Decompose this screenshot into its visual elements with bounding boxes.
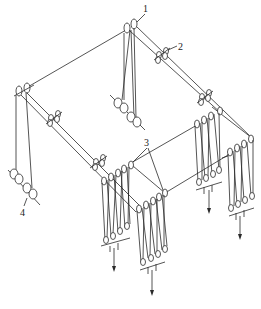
connector-rope — [222, 156, 228, 158]
load-arrow-a — [112, 266, 116, 272]
leader-line-1 — [137, 14, 145, 22]
pulley-block-group-d — [228, 135, 255, 240]
label-3: 3 — [144, 137, 149, 148]
pulley-block-group-a — [101, 161, 134, 272]
guide-pulleys-top-right — [154, 48, 170, 64]
pulley-system-diagram: 1 2 — [0, 0, 261, 309]
leader-line-3b — [148, 148, 163, 190]
middle-winch-drums — [110, 95, 145, 130]
guide-pulleys-right — [197, 90, 223, 116]
load-arrow-d — [238, 234, 242, 240]
pulley-block-group-c — [195, 112, 223, 214]
label-4: 4 — [20, 207, 25, 218]
label-1: 1 — [143, 3, 148, 14]
load-arrow-b — [150, 290, 154, 296]
load-arrow-c — [207, 208, 211, 214]
diagram-drawing: 1 2 — [0, 0, 261, 309]
label-2: 2 — [178, 41, 183, 52]
guide-pulleys-left — [46, 111, 107, 171]
left-winch-drums — [8, 169, 40, 205]
pulley-block-group-b — [137, 189, 168, 296]
leader-line-4 — [24, 198, 27, 206]
